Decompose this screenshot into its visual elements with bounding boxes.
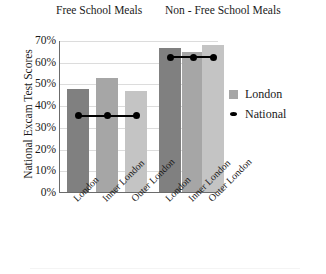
bottom-artifact-line: [30, 268, 300, 269]
national-data-point: [75, 112, 82, 119]
national-exam-scores-chart: Free School Meals Non - Free School Meal…: [0, 0, 326, 274]
national-data-point: [190, 54, 197, 61]
legend-label-london: London: [245, 87, 282, 102]
square-swatch-icon: [229, 90, 238, 99]
gridline: [60, 41, 218, 42]
group-title-free-school-meals: Free School Meals: [56, 4, 142, 16]
y-tick-label: 40%: [10, 100, 56, 111]
legend-item-national: National: [229, 104, 325, 124]
y-tick-label: 30%: [10, 122, 56, 133]
y-tick-label: 50%: [10, 78, 56, 89]
bar: [67, 89, 89, 192]
national-data-point: [167, 54, 174, 61]
y-tick-label: 10%: [10, 165, 56, 176]
group-title-non-free-school-meals: Non - Free School Meals: [165, 4, 281, 16]
y-tick-label: 70%: [10, 35, 56, 46]
y-tick-label: 20%: [10, 144, 56, 155]
y-tick-label: 0%: [10, 187, 56, 198]
y-tick-label: 60%: [10, 57, 56, 68]
national-data-point: [104, 112, 111, 119]
legend: London National: [229, 84, 325, 124]
bar: [182, 52, 204, 192]
legend-label-national: National: [245, 107, 286, 122]
group-titles: Free School Meals Non - Free School Meal…: [0, 4, 326, 22]
diamond-marker-icon: [229, 110, 238, 119]
bar: [96, 78, 118, 192]
national-data-point: [133, 112, 140, 119]
legend-item-london: London: [229, 84, 325, 104]
national-data-point: [210, 54, 217, 61]
